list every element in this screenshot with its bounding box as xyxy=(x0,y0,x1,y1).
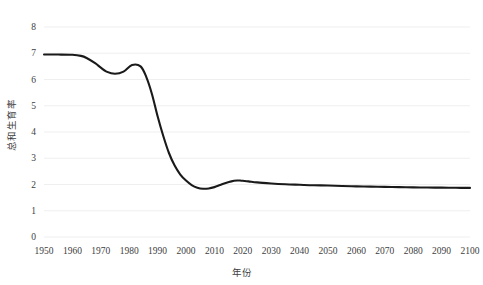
y-tick-label: 1 xyxy=(14,206,36,216)
y-tick-label: 0 xyxy=(14,232,36,242)
x-axis-title: 年份 xyxy=(0,265,483,279)
chart-canvas xyxy=(0,0,483,285)
y-tick-label: 8 xyxy=(14,22,36,32)
y-tick-label: 7 xyxy=(14,48,36,58)
y-tick-label: 2 xyxy=(14,180,36,190)
gridlines xyxy=(44,27,470,237)
fertility-rate-line-chart: 012345678 195019601970198019902000201020… xyxy=(0,0,483,285)
fertility-rate-line xyxy=(44,55,470,189)
y-tick-label: 6 xyxy=(14,75,36,85)
x-tick-label: 2100 xyxy=(453,246,483,256)
y-axis-title: 总和生育率 xyxy=(4,88,18,162)
